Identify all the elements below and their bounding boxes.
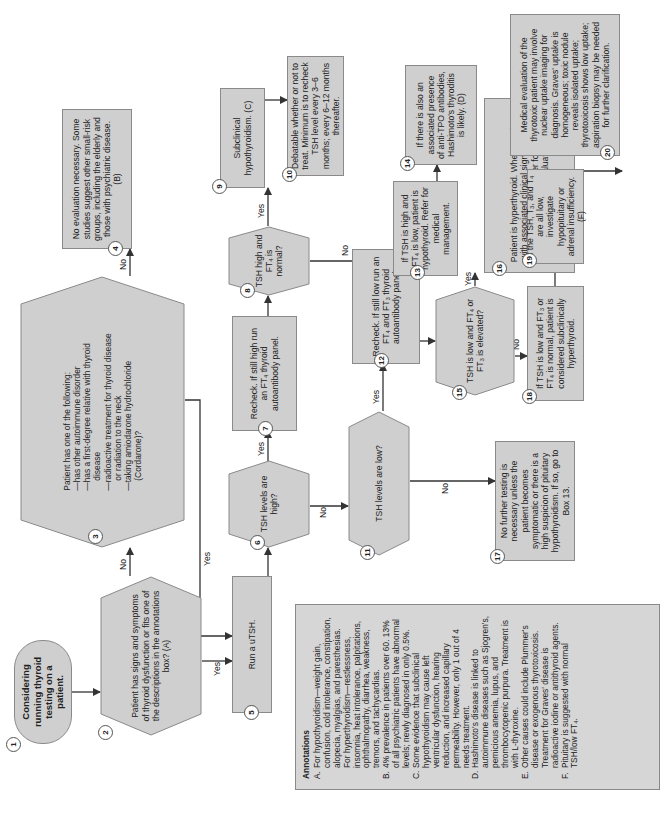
node-17-text: No further testing is necessary unless t… — [499, 447, 571, 555]
node-9-number: 9 — [212, 179, 227, 194]
node-1-number: 1 — [6, 737, 21, 752]
annotation-e: E.Other causes could include Plummer's d… — [521, 615, 561, 779]
node-13-text: If TSH is high and FT4 is low, patient i… — [400, 187, 452, 270]
node-5-process: Run a uTSH. — [232, 576, 272, 713]
node-20-number: 20 — [600, 145, 615, 160]
node-10-process: Debatable whether or not to treat. Minim… — [287, 56, 344, 176]
node-14-process: If there is also an associated presence … — [405, 65, 477, 165]
edge-label-2-5-yes: Yes — [212, 662, 222, 676]
node-6-number: 6 — [250, 535, 265, 550]
node-13-process: If TSH is high and FT4 is low, patient i… — [393, 181, 458, 276]
node-18-text: If TSH is low and FT3 or FT4 is normal, … — [535, 292, 576, 395]
node-11-number: 11 — [360, 545, 375, 560]
edge-label-11-12-yes: Yes — [371, 390, 381, 404]
node-9-text: Subclinical hypothyroidism. (C) — [232, 94, 253, 182]
edge-label-3-5-yes: Yes — [202, 552, 212, 566]
node-14-text: If there is also an associated presence … — [415, 71, 467, 159]
edge-label-11-17-no: No — [440, 483, 450, 494]
node-10-text: Debatable whether or not to treat. Minim… — [290, 62, 342, 170]
node-7-number: 7 — [258, 421, 273, 436]
node-11-text: TSH levels are low? — [374, 431, 384, 535]
node-1-start: Considering running thyroid testing on a… — [14, 640, 72, 744]
node-3-decision: Patient has one of the following: —has o… — [20, 276, 185, 548]
node-11-decision: TSH levels are low? — [348, 411, 410, 556]
node-4-number: 4 — [108, 241, 123, 256]
node-3-number: 3 — [88, 529, 103, 544]
flowchart-canvas: No Yes No Yes Yes No Yes No Yes No Yes N… — [0, 0, 665, 816]
node-15-decision: TSH is low and FT4 or FT3 is elevated? — [435, 286, 515, 396]
edge-label-2-3-no: No — [118, 559, 128, 570]
node-18-process: If TSH is low and FT3 or FT4 is normal, … — [527, 286, 584, 401]
node-5-text: Run a uTSH. — [247, 620, 257, 670]
node-15-text: TSH is low and FT4 or FT3 is elevated? — [465, 286, 486, 396]
annotation-c: C.Some evidence that subclinical hypothy… — [412, 615, 471, 779]
edge-label-8-13-no: No — [340, 245, 350, 256]
node-6-text: TSH levels are high? — [259, 460, 280, 548]
node-10-number: 10 — [282, 167, 297, 182]
node-3-text: Patient has one of the following: —has o… — [62, 319, 143, 504]
node-19-number: 19 — [522, 253, 537, 268]
node-7-process: Recheck. If still high run an FT4 thyroi… — [232, 316, 297, 431]
node-17-process: No further testing is necessary unless t… — [495, 441, 575, 561]
annotations-panel: Annotations A.For hypothyroidism—weight … — [295, 604, 660, 790]
node-14-number: 14 — [400, 156, 415, 171]
node-2-text: Patient has signs and symptoms of thyroi… — [130, 576, 171, 736]
annotations-title: Annotations — [302, 615, 312, 779]
node-19-process: If the TSH, T3, and T4 are all low, inve… — [527, 169, 584, 264]
node-4-process: No evaluation necessary. Some studies su… — [62, 109, 132, 249]
edge-label-15-16-yes: Yes — [463, 272, 473, 286]
edge-label-8-9-yes: Yes — [256, 204, 266, 218]
node-6-decision: TSH levels are high? — [228, 460, 310, 548]
node-15-number: 15 — [452, 385, 467, 400]
node-12-number: 12 — [374, 353, 389, 368]
node-17-number: 17 — [490, 549, 505, 564]
node-1-text: Considering running thyroid testing on a… — [20, 653, 66, 731]
node-16-number: 16 — [492, 261, 507, 276]
edge-label-6-11-no: No — [318, 507, 328, 518]
node-5-number: 5 — [244, 705, 259, 720]
node-7-text: Recheck. If still high run an FT4 thyroi… — [249, 322, 280, 425]
node-2-decision: Patient has signs and symptoms of thyroi… — [100, 576, 202, 736]
node-4-text: No evaluation necessary. Some studies su… — [71, 115, 123, 243]
annotation-b: B.4% prevalence in patients over 60. 13%… — [382, 615, 412, 779]
annotation-f: F.Pituitary is suggested with normal TSH… — [561, 615, 581, 779]
node-2-number: 2 — [98, 725, 113, 740]
node-8-number: 8 — [240, 283, 255, 298]
edge-label-3-4-no: No — [118, 259, 128, 270]
node-18-number: 18 — [522, 389, 537, 404]
edge-label-6-7-yes: Yes — [256, 442, 266, 456]
node-8-text: TSH high and FT4 is normal? — [254, 226, 285, 296]
node-9-process: Subclinical hypothyroidism. (C) — [220, 88, 265, 188]
annotation-d: D.Hashimoto's disease is linked to autoi… — [471, 615, 521, 779]
annotation-a: A.For hypothyroidism—weight gain, confus… — [313, 615, 382, 779]
node-20-text: Medical evaluation of the thyrotoxic pat… — [519, 20, 612, 150]
node-20-process: Medical evaluation of the thyrotoxic pat… — [510, 14, 620, 156]
node-19-text: If the TSH, T3, and T4 are all low, inve… — [525, 175, 587, 258]
node-13-number: 13 — [410, 265, 425, 280]
